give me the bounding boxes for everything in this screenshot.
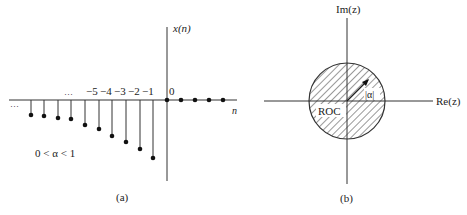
tick-label-minus4: −4 <box>100 85 112 97</box>
n-axis-label: n <box>232 105 237 116</box>
im-axis-label: Im(z) <box>336 3 361 16</box>
panel-b: |α| ROC Im(z) Re(z) (b) <box>264 3 461 205</box>
tick-label-minus5: −5 <box>86 85 98 97</box>
tick-label-minus3: −3 <box>114 85 126 97</box>
tick-label-minus1: −1 <box>142 85 154 97</box>
panel-a: x(n) n … … −5 −4 −3 −2 −1 0 0 < α < 1 (a… <box>9 22 237 204</box>
figure: x(n) n … … −5 −4 −3 −2 −1 0 0 < α < 1 (a… <box>0 0 467 215</box>
caption-a: (a) <box>116 191 129 204</box>
figure-canvas: x(n) n … … −5 −4 −3 −2 −1 0 0 < α < 1 (a… <box>0 0 467 215</box>
re-axis-label: Re(z) <box>436 95 461 108</box>
condition-label: 0 < α < 1 <box>35 147 75 159</box>
radius-label: |α| <box>365 89 374 100</box>
tick-label-zero: 0 <box>169 85 175 97</box>
roc-label: ROC <box>318 105 341 117</box>
tick-ellipsis: … <box>64 87 73 97</box>
xn-axis-label: x(n) <box>172 22 191 35</box>
left-ellipsis: … <box>10 99 19 109</box>
caption-b: (b) <box>340 192 353 205</box>
tick-label-minus2: −2 <box>128 85 140 97</box>
